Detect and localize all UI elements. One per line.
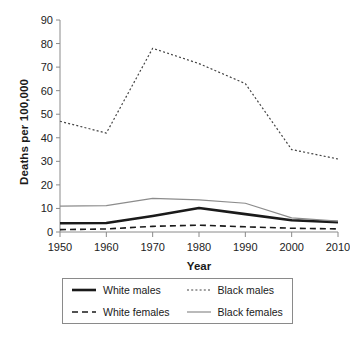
legend-label: Black females bbox=[218, 306, 283, 318]
x-tick-label: 1990 bbox=[233, 241, 257, 253]
y-tick-label: 90 bbox=[41, 14, 53, 26]
x-tick-label: 1970 bbox=[140, 241, 164, 253]
legend-item-white-males: White males bbox=[63, 284, 178, 296]
legend-item-black-females: Black females bbox=[178, 306, 293, 318]
chart-legend: White males Black males White females Bl… bbox=[62, 278, 293, 324]
series-line-black-females bbox=[60, 198, 338, 221]
legend-item-white-females: White females bbox=[63, 306, 178, 318]
y-tick-label: 0 bbox=[47, 226, 53, 238]
series-line-black-males bbox=[60, 48, 338, 159]
legend-label: Black males bbox=[218, 284, 275, 296]
legend-item-black-males: Black males bbox=[178, 284, 293, 296]
y-tick-label: 40 bbox=[41, 132, 53, 144]
y-tick-label: 60 bbox=[41, 85, 53, 97]
y-tick-label: 70 bbox=[41, 61, 53, 73]
legend-label: White females bbox=[103, 306, 170, 318]
x-tick-label: 2000 bbox=[279, 241, 303, 253]
y-tick-label: 50 bbox=[41, 108, 53, 120]
x-tick-label: 1950 bbox=[48, 241, 72, 253]
legend-label: White males bbox=[103, 284, 161, 296]
x-tick-label: 2010 bbox=[326, 241, 350, 253]
y-tick-label: 80 bbox=[41, 38, 53, 50]
y-tick-label: 30 bbox=[41, 155, 53, 167]
series-line-white-males bbox=[60, 208, 338, 223]
legend-swatch-solid-thick bbox=[71, 285, 97, 295]
y-tick-label: 10 bbox=[41, 202, 53, 214]
x-tick-label: 1980 bbox=[187, 241, 211, 253]
x-tick-label: 1960 bbox=[94, 241, 118, 253]
legend-swatch-solid-thin bbox=[186, 307, 212, 317]
legend-swatch-dotted bbox=[186, 285, 212, 295]
chart-figure: Deaths per 100,000 010203040506070809019… bbox=[0, 0, 350, 342]
x-axis-label: Year bbox=[60, 260, 338, 272]
y-tick-label: 20 bbox=[41, 179, 53, 191]
series-line-white-females bbox=[60, 225, 338, 229]
legend-swatch-dashed bbox=[71, 307, 97, 317]
